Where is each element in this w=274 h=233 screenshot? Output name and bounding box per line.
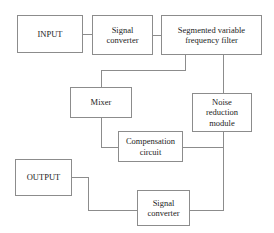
node-input[interactable]: INPUT	[17, 15, 83, 53]
node-compensation-circuit-label: Compensation circuit	[124, 136, 177, 156]
node-signal-converter-bottom-label: Signal converter	[145, 198, 181, 218]
connector-output-to-signal-converter-bottom	[72, 177, 137, 210]
node-mixer-label: Mixer	[89, 97, 114, 107]
node-noise-reduction-module[interactable]: Noise reduction module	[192, 93, 252, 132]
node-segmented-variable-frequency-filter[interactable]: Segmented variable frequency filter	[161, 15, 262, 55]
node-mixer[interactable]: Mixer	[70, 87, 132, 118]
node-signal-converter-top[interactable]: Signal converter	[92, 15, 153, 55]
node-segmented-variable-frequency-filter-label: Segmented variable frequency filter	[176, 25, 247, 45]
node-output[interactable]: OUTPUT	[15, 159, 72, 196]
node-output-label: OUTPUT	[25, 172, 63, 182]
node-signal-converter-top-label: Signal converter	[104, 25, 140, 45]
block-diagram: INPUT Signal converter Segmented variabl…	[0, 0, 274, 233]
node-input-label: INPUT	[35, 29, 64, 39]
node-compensation-circuit[interactable]: Compensation circuit	[118, 131, 183, 162]
connector-noise-reduction-module-to-bus	[190, 132, 223, 210]
node-noise-reduction-module-label: Noise reduction module	[204, 97, 240, 127]
connector-filter-to-mixer	[101, 55, 185, 87]
node-signal-converter-bottom[interactable]: Signal converter	[137, 190, 190, 226]
connector-mixer-to-compensation-circuit	[101, 118, 118, 147]
